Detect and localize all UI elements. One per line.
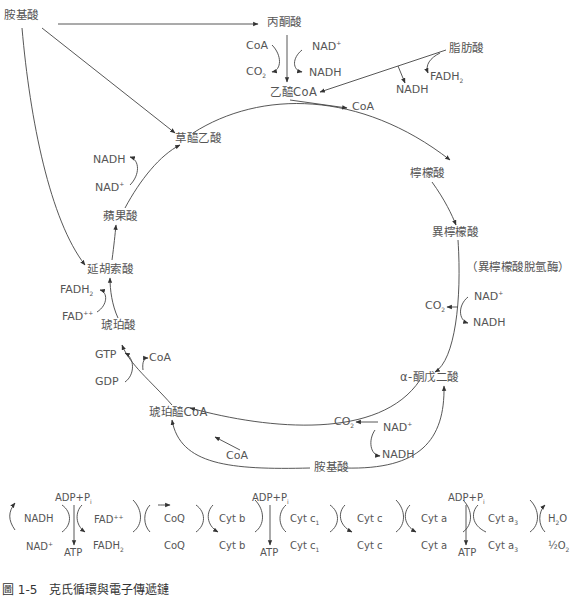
label-isocitrate-co2: CO2 xyxy=(425,300,445,313)
label-fatty-acid: 脂肪酸 xyxy=(449,43,484,55)
label-isocitrate-enzyme: （異檸檬酸脫氫酶） xyxy=(466,262,570,274)
etc-cytc1-red: Cyt c1 xyxy=(290,541,319,553)
etc-nad: NAD+ xyxy=(26,541,53,552)
etc-nadh: NADH xyxy=(24,514,54,524)
label-malate: 蘋果酸 xyxy=(103,211,138,223)
etc-water: H2O xyxy=(548,514,567,526)
etc-fad: FAD++ xyxy=(94,514,123,525)
etc-atp-site-2-bottom: ATP xyxy=(260,548,278,558)
coa-co2-curve xyxy=(272,45,280,72)
label-pyruvate: 丙酮酸 xyxy=(267,17,302,29)
arrow-fumarate-to-malate xyxy=(112,225,116,260)
etc-atp-site-2-top: ADP+Pi xyxy=(252,493,289,505)
label-pyruvate-nad: NAD+ xyxy=(312,40,341,52)
label-akg-nadh: NADH xyxy=(382,449,415,460)
etc-cytb-red: Cyt b xyxy=(219,541,245,551)
label-citrate: 檸檬酸 xyxy=(410,168,445,180)
acetylcoa-coa xyxy=(290,100,347,108)
label-succinate: 琥珀酸 xyxy=(101,320,136,332)
label-pyruvate-nadh: NADH xyxy=(309,67,342,78)
label-akg-co2: CO2 xyxy=(334,416,354,429)
label-isocitrate-nad: NAD+ xyxy=(474,290,503,302)
label-amino-acid-top: 胺基酸 xyxy=(4,10,39,22)
arrow-oaa-to-citrate xyxy=(193,104,450,160)
label-akg-nad: NAD+ xyxy=(383,421,412,433)
arrow-aa-to-fumarate xyxy=(22,28,85,265)
etc-cyta-red: Cyt a xyxy=(421,541,447,551)
label-fatty-fadh2: FADH2 xyxy=(430,71,463,84)
etc-atp-site-3-bottom: ATP xyxy=(458,548,476,558)
etc-coq-ox: CoQ xyxy=(164,514,185,524)
label-pyruvate-coa: CoA xyxy=(246,40,268,51)
label-fumarate: 延胡索酸 xyxy=(87,264,133,276)
label-fadh2: FADH2 xyxy=(60,284,93,297)
label-acetyl-coa: 乙醯CoA xyxy=(270,87,317,99)
etc-atp-site-3-top: ADP+Pi xyxy=(448,493,485,505)
label-malate-nad: NAD+ xyxy=(95,181,124,193)
arrow-akg-to-succinylcoa xyxy=(190,380,420,425)
label-gtp: GTP xyxy=(95,349,116,360)
nad-nadh-curve xyxy=(295,50,303,72)
etc-fadh2: FADH2 xyxy=(93,541,124,553)
label-succinylcoa-coa: CoA xyxy=(226,450,248,461)
fatty-nadh xyxy=(398,66,405,83)
malate-nad-curve xyxy=(130,157,138,185)
etc-cytc1-ox: Cyt c1 xyxy=(290,514,319,526)
etc-cyta-ox: Cyt a xyxy=(421,514,447,524)
label-alpha-ketoglutarate: α-酮戊二酸 xyxy=(400,372,459,384)
label-succinyl-coa: 琥珀醯CoA xyxy=(149,407,208,419)
arrow-citrate-to-isocitrate xyxy=(432,182,456,225)
arrow-aa-to-oaa xyxy=(42,28,175,133)
arrow-succinate-to-fumarate xyxy=(110,278,118,318)
label-fatty-nadh: NADH xyxy=(396,84,429,95)
label-fad: FAD++ xyxy=(62,310,93,322)
succinate-coa xyxy=(143,358,148,370)
etc-oxygen: ½O2 xyxy=(548,541,569,553)
etc-cyta3-red: Cyt a3 xyxy=(488,541,518,553)
label-pyruvate-co2: CO2 xyxy=(246,66,266,79)
etc-cytc-ox: Cyt c xyxy=(357,514,383,524)
akg-nad-curve xyxy=(371,430,380,456)
label-oxaloacetate: 草醯乙酸 xyxy=(175,133,221,145)
label-isocitrate-nadh: NADH xyxy=(473,317,506,328)
etc-coq-red: CoQ xyxy=(164,541,185,551)
label-isocitrate: 異檸檬酸 xyxy=(432,227,478,239)
fumarate-fad-curve xyxy=(97,290,106,312)
arrow-malate-to-oaa xyxy=(125,145,180,208)
figure-caption: 圖 1-5 克氏循環與電子傳遞鏈 xyxy=(2,580,169,597)
etc-cytb-ox: Cyt b xyxy=(219,514,245,524)
label-acetylcoa-coa-out: CoA xyxy=(352,101,374,112)
label-gdp: GDP xyxy=(95,376,119,387)
label-succinate-coa: CoA xyxy=(149,352,171,363)
etc-atp-site-1-top: ADP+Pi xyxy=(55,493,92,505)
etc-cyta3-ox: Cyt a3 xyxy=(488,514,518,526)
etc-atp-site-1-bottom: ATP xyxy=(64,548,82,558)
label-amino-acid-bottom: 胺基酸 xyxy=(314,462,349,474)
label-malate-nadh: NADH xyxy=(93,154,126,165)
etc-arcs xyxy=(10,500,545,545)
etc-cytc-red: Cyt c xyxy=(357,541,383,551)
isocitrate-nad-curve xyxy=(461,297,469,323)
